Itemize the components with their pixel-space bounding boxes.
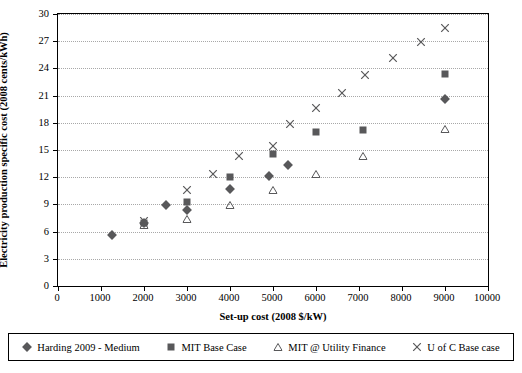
cross-marker-icon [183, 185, 192, 194]
triangle-marker-icon [140, 221, 149, 229]
legend-label: U of C Base case [427, 342, 499, 353]
gridline [58, 123, 488, 124]
square-marker-icon [442, 70, 449, 77]
gridline [58, 150, 488, 151]
x-tick-label: 9000 [434, 292, 455, 303]
cross-marker-icon [234, 152, 243, 161]
legend-label: Harding 2009 - Medium [37, 342, 139, 353]
legend-item: MIT @ Utility Finance [273, 342, 385, 353]
x-axis-title: Set-up cost (2008 $/kW) [57, 311, 489, 322]
cross-marker-icon [441, 23, 450, 32]
x-tick [273, 286, 274, 291]
y-tick-label: 0 [44, 280, 49, 291]
y-tick [53, 96, 58, 97]
diamond-marker-icon [22, 342, 32, 352]
diamond-marker-icon [139, 218, 149, 228]
x-tick [187, 286, 188, 291]
y-tick [53, 41, 58, 42]
x-tick-label: 3000 [176, 292, 197, 303]
square-marker-icon [270, 150, 277, 157]
x-tick [58, 286, 59, 291]
gridline [58, 177, 488, 178]
y-tick [53, 68, 58, 69]
x-tick-label: 0 [54, 292, 59, 303]
triangle-marker-icon [183, 215, 192, 223]
square-marker-icon [313, 128, 320, 135]
x-tick [488, 286, 489, 291]
x-tick [359, 286, 360, 291]
y-tick-label: 3 [44, 252, 49, 263]
y-tick [53, 259, 58, 260]
triangle-marker-icon [359, 152, 368, 160]
x-tick [445, 286, 446, 291]
x-tick-label: 7000 [348, 292, 369, 303]
legend-label: MIT Base Case [181, 342, 246, 353]
legend-item: U of C Base case [412, 342, 499, 353]
gridline [58, 204, 488, 205]
x-tick [230, 286, 231, 291]
diamond-marker-icon [182, 205, 192, 215]
x-tick-label: 6000 [305, 292, 326, 303]
x-tick [101, 286, 102, 291]
y-axis-title: Electricity production specific cost (20… [0, 32, 9, 268]
legend-item: MIT Base Case [166, 342, 246, 353]
y-tick-label: 30 [39, 8, 50, 19]
gridline [58, 41, 488, 42]
gridline [58, 14, 488, 15]
chart-legend: Harding 2009 - MediumMIT Base CaseMIT @ … [8, 333, 514, 361]
y-tick [53, 123, 58, 124]
y-tick-label: 15 [39, 144, 50, 155]
cross-marker-icon [312, 104, 321, 113]
x-tick-label: 4000 [219, 292, 240, 303]
square-marker-icon [168, 344, 175, 351]
y-tick [53, 150, 58, 151]
square-marker-icon [141, 220, 148, 227]
triangle-marker-icon [441, 125, 450, 133]
legend-marker [22, 342, 32, 352]
scatter-chart: Electricity production specific cost (20… [0, 0, 522, 373]
legend-marker [273, 342, 283, 352]
x-tick [144, 286, 145, 291]
y-tick-label: 27 [39, 35, 50, 46]
cross-marker-icon [140, 216, 149, 225]
x-tick-label: 2000 [133, 292, 154, 303]
x-tick-label: 1000 [90, 292, 111, 303]
cross-marker-icon [389, 54, 398, 63]
gridline [58, 232, 488, 233]
cross-marker-icon [413, 343, 422, 352]
y-tick [53, 177, 58, 178]
x-tick [402, 286, 403, 291]
y-tick-label: 6 [44, 225, 49, 236]
cross-marker-icon [361, 70, 370, 79]
diamond-marker-icon [225, 184, 235, 194]
y-tick [53, 204, 58, 205]
legend-marker [412, 342, 422, 352]
gridline [58, 68, 488, 69]
gridline [58, 259, 488, 260]
square-marker-icon [360, 127, 367, 134]
diamond-marker-icon [283, 160, 293, 170]
x-tick [316, 286, 317, 291]
y-tick [53, 14, 58, 15]
legend-item: Harding 2009 - Medium [22, 342, 139, 353]
y-tick-label: 18 [39, 116, 50, 127]
plot-area [57, 13, 489, 287]
x-tick-label: 8000 [391, 292, 412, 303]
x-tick-label: 10000 [474, 292, 500, 303]
x-tick-label: 5000 [262, 292, 283, 303]
y-tick-label: 9 [44, 198, 49, 209]
triangle-marker-icon [269, 186, 278, 194]
y-tick-label: 12 [39, 171, 50, 182]
gridline [58, 96, 488, 97]
y-tick [53, 232, 58, 233]
legend-label: MIT @ Utility Finance [288, 342, 385, 353]
y-tick-label: 21 [39, 89, 50, 100]
legend-marker [166, 342, 176, 352]
triangle-marker-icon [274, 343, 283, 351]
y-tick-label: 24 [39, 62, 50, 73]
